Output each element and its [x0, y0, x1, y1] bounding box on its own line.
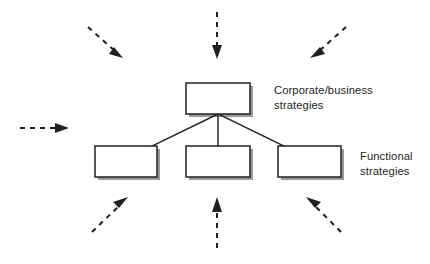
- influence-arrow-bottom-left: [92, 197, 128, 232]
- influence-arrow-top-left: [88, 27, 123, 58]
- corporate-business-strategies-label: Corporate/business strategies: [274, 83, 424, 113]
- connector-layer: [152, 114, 284, 146]
- functional-strategy-box-left[interactable]: [95, 146, 157, 177]
- connector-right: [218, 114, 284, 146]
- influence-arrow-bottom-right: [306, 197, 341, 232]
- functional-strategy-box-center[interactable]: [186, 146, 250, 177]
- functional-strategies-label: Functional strategies: [360, 149, 430, 179]
- influence-arrow-top-center: [212, 12, 222, 59]
- diagram-canvas: Corporate/business strategies Functional…: [0, 0, 430, 264]
- corporate-business-strategy-box[interactable]: [186, 83, 250, 114]
- diagram-svg: [0, 0, 430, 264]
- influence-arrow-top-right: [310, 27, 346, 58]
- influence-arrow-layer: [20, 12, 346, 248]
- influence-arrow-left: [20, 123, 69, 133]
- functional-strategy-box-right[interactable]: [278, 146, 341, 177]
- influence-arrow-bottom-center: [212, 197, 222, 248]
- connector-left: [152, 114, 218, 146]
